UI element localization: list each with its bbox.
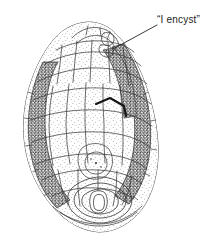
figure-container: “I encyst” (0, 0, 209, 247)
annotation-label-encyst: “I encyst” (157, 15, 200, 25)
specimen-illustration (0, 0, 209, 247)
